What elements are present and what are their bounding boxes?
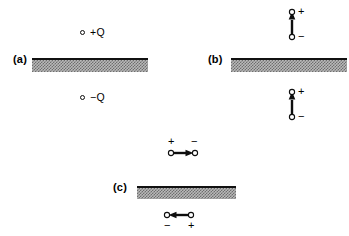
dipole-sign-positive: + [298, 86, 304, 97]
physics-figure-electrostatic-induction: (a) +Q −Q (b) + − + − + [0, 0, 349, 236]
conducting-plate-c [137, 186, 236, 199]
panel-label-a: (a) [13, 53, 27, 65]
dipole-sign-positive: + [188, 220, 194, 231]
panel-label-c: (c) [113, 181, 127, 193]
dipole-sign-positive: + [298, 6, 304, 17]
panel-label-b: (b) [208, 53, 223, 65]
conducting-plate-b [231, 58, 347, 72]
dipole-b-above-plate: + − [286, 8, 316, 42]
dipole-c-above-plate: + − [167, 136, 203, 160]
point-charge-circle-icon [80, 30, 85, 35]
charge-positive-q: +Q [80, 26, 105, 38]
dipole-sign-positive: + [168, 136, 174, 147]
dipole-sign-negative: − [164, 220, 170, 231]
dipole-sign-negative: − [298, 111, 304, 122]
dipole-c-below-plate: − + [163, 210, 199, 234]
dipole-horizontal-arrow-icon [167, 148, 203, 162]
dipole-sign-negative: − [298, 31, 304, 42]
dipole-sign-negative: − [191, 136, 197, 147]
charge-label-positive-q: +Q [90, 26, 105, 38]
charge-label-negative-q: −Q [90, 91, 105, 103]
dipole-b-below-plate: + − [286, 88, 316, 122]
conducting-plate-a [32, 58, 148, 72]
point-charge-circle-icon [80, 95, 85, 100]
charge-negative-q: −Q [80, 91, 105, 103]
